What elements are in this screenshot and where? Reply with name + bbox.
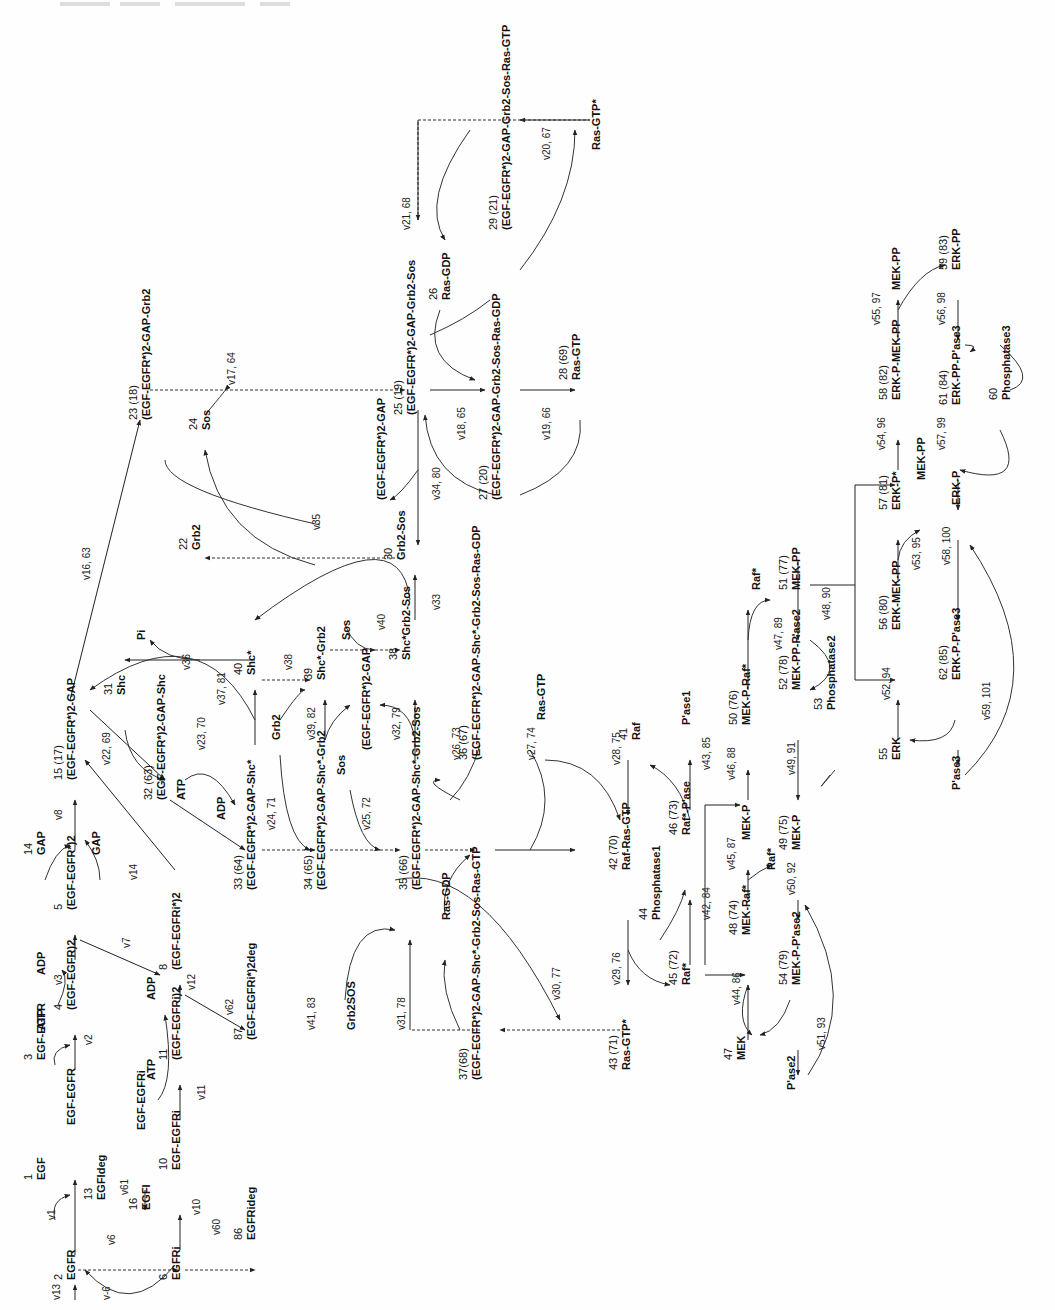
species-label: GAP	[90, 831, 102, 855]
reaction-rate-label: v54, 96	[876, 417, 887, 450]
species-number: 25 (19)	[392, 380, 404, 415]
species-label: Phosphatase2	[825, 635, 837, 710]
reaction-rate-label: v-6	[101, 1286, 112, 1300]
reaction-rate-label: v7	[121, 937, 132, 948]
species-label: EGFRideg	[245, 1187, 257, 1240]
species-number: 24	[187, 418, 199, 430]
species-node: 23 (18)(EGF-EGFR*)2-GAP-Grb2	[127, 289, 152, 420]
species-number: 3	[22, 1054, 34, 1060]
species-label: Raf*-P'ase	[680, 781, 692, 835]
pathway-diagram: 2EGFR1EGFEGF-EGFR3EGF-EGFR4(EGF-EGFR)25(…	[0, 0, 1055, 1310]
species-label: ERK-P-P'ase3	[950, 608, 962, 680]
species-node: ADP	[145, 977, 157, 1000]
species-node: 46 (73)Raf*-P'ase	[667, 781, 692, 835]
species-node: Pi	[135, 630, 147, 640]
species-node: (EGF-EGFR*)2-GAP	[360, 648, 372, 750]
species-node: MEK-P	[740, 805, 752, 840]
species-node: 26Ras-GDP	[427, 252, 452, 300]
species-node: 48 (74)MEK-Raf*	[727, 884, 752, 935]
reaction-rate-label: v32, 79	[391, 707, 402, 740]
species-number: 50 (76)	[727, 690, 739, 725]
species-node: GAP	[90, 831, 102, 855]
species-label: Ras-GDP	[440, 252, 452, 300]
species-label: (EGF-EGFRi*)2	[170, 892, 182, 970]
species-label: MEK-PP	[890, 247, 902, 290]
species-number: 31	[102, 683, 114, 695]
species-number: 6	[157, 1274, 169, 1280]
species-label: (EGF-EGFR*)2-GAP	[375, 398, 387, 500]
species-node: 44Phosphatase1	[637, 845, 662, 920]
species-node: 40Shc*	[232, 650, 257, 675]
reaction-rate-label: v40	[376, 613, 387, 630]
reaction-rate-label: v3	[53, 974, 64, 985]
species-node: 13EGFIdeg	[82, 1155, 107, 1200]
species-node: 56 (80)ERK-MEK-PP	[877, 560, 902, 630]
species-node: 53Phosphatase2	[812, 635, 837, 710]
species-label: MEK-PP	[915, 437, 927, 480]
reaction-rate-label: v1	[46, 1209, 57, 1220]
species-node: 54 (79)MEK-P-P'ase2	[777, 911, 802, 985]
species-label: MEK-PP-P'ase2	[790, 609, 802, 690]
species-number: 54 (79)	[777, 950, 789, 985]
species-label: Raf*	[765, 847, 777, 870]
species-label: Ras-GTP*	[620, 1019, 632, 1070]
species-node: 57 (81)ERK-P*	[877, 471, 902, 510]
species-node: EGF-EGFR	[65, 1068, 77, 1125]
species-label: (EGF-EGFR*)2-GAP-Shc	[155, 674, 167, 800]
species-label: ADP	[35, 952, 47, 975]
species-label: ERK-P	[950, 471, 962, 505]
species-number: 27 (20)	[477, 465, 489, 500]
reaction-rate-label: v42, 84	[701, 887, 712, 920]
species-label: Raf*	[750, 567, 762, 590]
species-label: (EGF-EGFRi)2	[170, 987, 182, 1060]
species-node: 5(EGF-EGFR*)2	[52, 835, 77, 910]
species-label: (EGF-EGFRi*)2deg	[245, 943, 257, 1040]
species-label: Grb2	[270, 714, 282, 740]
species-node: 14GAP	[22, 831, 47, 855]
species-node: 37(68)(EGF-EGFR*)2-GAP-Shc*-Grb2-Sos-Ras…	[457, 847, 482, 1080]
species-node: 8(EGF-EGFRi*)2	[157, 892, 182, 970]
species-label: (EGF-EGFR*)2-GAP	[360, 648, 372, 750]
species-number: 55	[877, 748, 889, 760]
species-label: EGFRi	[170, 1246, 182, 1280]
species-node: 49 (75)MEK-P	[777, 815, 802, 850]
species-label: (EGF-EGFR*)2-GAP-Grb2-Sos	[405, 260, 417, 415]
species-node: P'ase2	[785, 1056, 797, 1090]
reaction-rate-label: v20, 67	[541, 127, 552, 160]
species-label: MEK-P	[790, 815, 802, 850]
species-node: 6EGFRi	[157, 1246, 182, 1280]
species-label: Raf*	[680, 962, 692, 985]
species-node: 11(EGF-EGFRi)2	[157, 987, 182, 1060]
species-number: 8	[157, 964, 169, 970]
reaction-rate-label: v26, 73	[451, 727, 462, 760]
species-label: ATP	[35, 1009, 47, 1030]
species-label: EGF-EGFR	[65, 1068, 77, 1125]
species-node: 30Grb2-Sos	[382, 510, 407, 560]
reaction-rate-label: v17, 64	[226, 352, 237, 385]
species-number: 57 (81)	[877, 475, 889, 510]
species-label: (EGF-EGFR*)2-GAP	[65, 678, 77, 780]
reaction-rate-label: v38	[283, 653, 294, 670]
species-number: 59 (83)	[937, 235, 949, 270]
species-number: 48 (74)	[727, 900, 739, 935]
species-label: (EGF-EGFR*)2-GAP-Shc*-Grb2-Sos-Ras-GTP	[470, 847, 482, 1080]
reaction-rate-label: v60	[211, 1218, 222, 1235]
species-node: Grb2SOS	[345, 981, 357, 1030]
reaction-rate-label: v13	[51, 1283, 62, 1300]
reaction-rate-label: v2	[83, 1034, 94, 1045]
reaction-rate-label: v27, 74	[526, 727, 537, 760]
reaction-rate-label: v24, 71	[266, 797, 277, 830]
species-number: 2	[52, 1274, 64, 1280]
species-number: 35 (66)	[397, 855, 409, 890]
species-node: ATP	[145, 1059, 157, 1080]
reaction-rate-label: v58, 100	[941, 526, 952, 565]
species-label: ERK-P*	[890, 471, 902, 510]
species-node: ADP	[35, 952, 47, 975]
species-label: Grb2SOS	[345, 981, 357, 1030]
reaction-rate-label: v50, 92	[786, 862, 797, 895]
species-node: 61 (84)ERK-PP-P'ase3	[937, 325, 962, 405]
species-label: (EGF-EGFR*)2-GAP-Shc*-Grb2-Sos	[410, 707, 422, 890]
species-number: 33 (64)	[232, 855, 244, 890]
species-label: (EGF-EGFR*)2-GAP-Grb2-Sos-Ras-GTP	[500, 25, 512, 230]
species-number: 43 (71)	[607, 1035, 619, 1070]
